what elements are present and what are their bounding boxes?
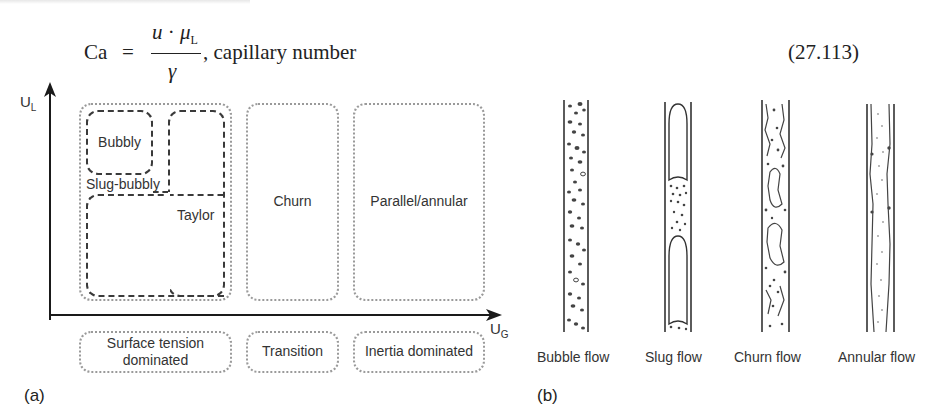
slug-bubbly-label: Slug-bubbly bbox=[86, 176, 160, 192]
slug-flow-label: Slug flow bbox=[645, 349, 702, 365]
surface-tension-dominated-box: Surface tension dominated bbox=[79, 331, 232, 373]
bubble-flow-tube bbox=[558, 100, 594, 332]
parallel-annular-label: Parallel/annular bbox=[370, 193, 467, 211]
churn-label: Churn bbox=[273, 193, 311, 211]
equation-equals: = bbox=[122, 40, 134, 65]
equation-denominator: γ bbox=[168, 59, 176, 84]
taylor-label: Taylor bbox=[177, 207, 214, 223]
equation-suffix: , capillary number bbox=[203, 40, 356, 65]
transition-box: Transition bbox=[246, 331, 339, 373]
annular-flow-label: Annular flow bbox=[838, 349, 915, 365]
slug-bubbly-connector bbox=[153, 191, 168, 193]
inertia-dominated-label: Inertia dominated bbox=[365, 343, 473, 361]
churn-flow-tube bbox=[758, 100, 794, 332]
churn-regime: Churn bbox=[246, 103, 339, 301]
parallel-annular-regime: Parallel/annular bbox=[353, 103, 485, 301]
equation-lhs: Ca bbox=[84, 40, 107, 65]
equation-number: (27.113) bbox=[788, 40, 859, 65]
inertia-dominated-box: Inertia dominated bbox=[353, 331, 485, 373]
panel-b-tag: (b) bbox=[537, 386, 558, 406]
annular-flow-tube bbox=[864, 104, 898, 332]
surface-tension-line1: Surface tension bbox=[107, 335, 204, 353]
fraction-bar bbox=[151, 53, 201, 54]
y-axis-arrow-icon bbox=[43, 82, 57, 98]
panel-a-tag: (a) bbox=[24, 386, 45, 406]
numerator-u: u bbox=[152, 20, 163, 44]
y-axis-label: UL bbox=[20, 93, 36, 113]
y-axis-line bbox=[49, 92, 51, 320]
surface-tension-line2: dominated bbox=[123, 352, 188, 370]
x-axis-label: UG bbox=[490, 320, 509, 340]
bubbly-label: Bubbly bbox=[98, 134, 141, 152]
numerator-dot: · bbox=[168, 20, 175, 44]
taylor-join-mask bbox=[166, 192, 170, 295]
cropped-text-remnant bbox=[0, 0, 250, 4]
transition-label: Transition bbox=[262, 343, 323, 361]
numerator-mu: μ bbox=[180, 20, 191, 44]
churn-flow-label: Churn flow bbox=[734, 349, 801, 365]
bubbly-regime: Bubbly bbox=[86, 110, 153, 175]
equation-numerator: u · μL bbox=[152, 20, 198, 48]
numerator-sub: L bbox=[191, 33, 198, 47]
slug-flow-tube bbox=[661, 102, 695, 332]
x-axis-line bbox=[49, 314, 494, 316]
bubble-flow-label: Bubble flow bbox=[537, 349, 609, 365]
